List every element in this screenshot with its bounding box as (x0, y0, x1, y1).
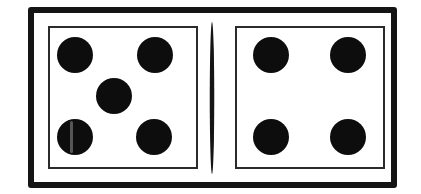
left-pip-center (96, 78, 132, 114)
left-pip-top-right (137, 37, 173, 73)
left-pip-top-left (57, 37, 93, 73)
domino-scene (0, 0, 421, 194)
domino-center-divider-core (211, 40, 214, 155)
left-pip-bottom-left (57, 119, 93, 155)
right-pip-top-right (330, 37, 366, 73)
right-pip-bottom-left (253, 119, 289, 155)
left-pip-bottom-right (136, 119, 172, 155)
right-pip-top-left (253, 37, 289, 73)
right-pip-bottom-right (330, 119, 366, 155)
